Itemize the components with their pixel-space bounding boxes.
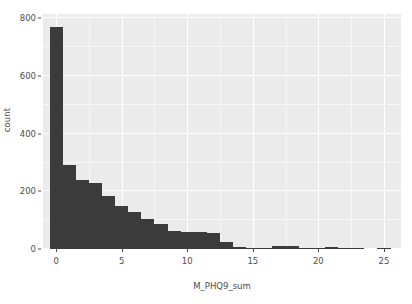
y-axis-tick-mark bbox=[38, 191, 41, 192]
y-axis-tick-mark bbox=[38, 133, 41, 134]
histogram-bar bbox=[63, 165, 76, 249]
histogram-bar bbox=[141, 219, 154, 249]
x-axis-tick-label: 25 bbox=[379, 256, 390, 266]
histogram-bar bbox=[207, 233, 220, 249]
histogram-bar bbox=[89, 183, 102, 249]
gridline-major-vertical bbox=[384, 14, 385, 249]
gridline-minor-horizontal bbox=[43, 104, 401, 105]
y-axis-tick-label: 400 bbox=[20, 129, 36, 139]
x-axis-tick-mark bbox=[253, 249, 254, 252]
histogram-bar bbox=[181, 232, 194, 249]
histogram-bar bbox=[128, 212, 141, 249]
x-axis-tick-label: 5 bbox=[119, 256, 124, 266]
histogram-bar bbox=[102, 196, 115, 249]
gridline-major-vertical bbox=[187, 14, 188, 249]
histogram-bar bbox=[115, 206, 128, 249]
x-axis-title: M_PHQ9_sum bbox=[43, 281, 401, 291]
y-axis-tick-label: 800 bbox=[20, 13, 36, 23]
gridline-major-horizontal bbox=[43, 17, 401, 18]
y-axis-tick-label: 200 bbox=[20, 186, 36, 196]
x-axis-tick-label: 10 bbox=[182, 256, 193, 266]
y-axis-tick-label: 600 bbox=[20, 71, 36, 81]
y-axis-tick-mark bbox=[38, 75, 41, 76]
y-axis-tick-mark bbox=[38, 18, 41, 19]
histogram-plot: count 0200400600800 0510152025 M_PHQ9_su… bbox=[0, 0, 412, 304]
gridline-minor-vertical bbox=[220, 14, 221, 249]
x-axis-tick-label: 0 bbox=[53, 256, 58, 266]
x-axis-ticks: 0510152025 bbox=[0, 249, 412, 273]
histogram-bar bbox=[168, 231, 181, 249]
x-axis-tick-mark bbox=[187, 249, 188, 252]
histogram-bar bbox=[154, 224, 167, 249]
histogram-bar bbox=[50, 27, 63, 249]
histogram-bar bbox=[76, 180, 89, 249]
plot-panel bbox=[43, 14, 401, 249]
x-axis-tick-mark bbox=[56, 249, 57, 252]
x-axis-tick-mark bbox=[384, 249, 385, 252]
gridline-major-vertical bbox=[318, 14, 319, 249]
gridline-minor-horizontal bbox=[43, 46, 401, 47]
x-axis-tick-mark bbox=[318, 249, 319, 252]
gridline-major-vertical bbox=[253, 14, 254, 249]
gridline-major-horizontal bbox=[43, 75, 401, 76]
gridline-major-horizontal bbox=[43, 133, 401, 134]
histogram-bar bbox=[220, 242, 233, 249]
x-axis-tick-label: 20 bbox=[313, 256, 324, 266]
x-axis-tick-label: 15 bbox=[247, 256, 258, 266]
gridline-minor-vertical bbox=[154, 14, 155, 249]
gridline-minor-horizontal bbox=[43, 162, 401, 163]
gridline-minor-vertical bbox=[351, 14, 352, 249]
histogram-bar bbox=[194, 232, 207, 249]
x-axis-tick-mark bbox=[122, 249, 123, 252]
gridline-minor-vertical bbox=[286, 14, 287, 249]
